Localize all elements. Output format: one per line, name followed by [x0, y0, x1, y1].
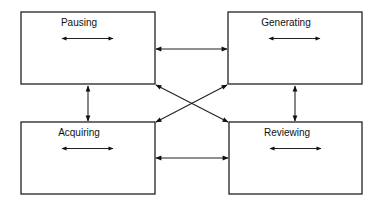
state-transition-diagram: Pausing Pause Gen. Acq. Rev. Generating	[0, 0, 383, 207]
state-box-acquiring: Acquiring Pause Gen. Acq. Rev.	[21, 122, 155, 194]
state-title: Pausing	[61, 17, 97, 28]
state-box-generating: Generating Pause Gen. Acq. Rev.	[228, 12, 362, 84]
state-title: Reviewing	[264, 127, 310, 138]
state-box-pausing: Pausing Pause Gen. Acq. Rev.	[21, 12, 155, 84]
state-box-reviewing: Reviewing Pause Gen. Acq. Rev.	[229, 122, 362, 194]
state-title: Acquiring	[58, 127, 100, 138]
state-title: Generating	[261, 17, 310, 28]
